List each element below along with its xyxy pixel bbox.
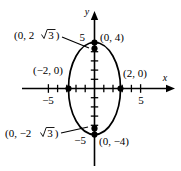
point-0-2root3 bbox=[91, 46, 97, 52]
label-neg2-0: (−2, 0) bbox=[33, 64, 63, 77]
point-2-0 bbox=[117, 85, 123, 91]
label-0-neg2root3-prefix: (0, −2 bbox=[5, 127, 31, 140]
y-axis-arrow-icon bbox=[91, 11, 98, 20]
label-0-4: (0, 4) bbox=[100, 31, 124, 44]
label-0-neg4: (0, −4) bbox=[99, 135, 129, 148]
point-neg2-0 bbox=[65, 85, 71, 91]
label-0-neg2root3-group: (0, −2 3 ) bbox=[5, 127, 59, 140]
point-0-neg4 bbox=[91, 131, 97, 137]
x-tick-label-neg5: −5 bbox=[42, 94, 54, 106]
point-0-4 bbox=[91, 39, 97, 45]
ellipse-figure: x y −5 5 5 −5 (0, 2 3 ) (0, 4) (−2, 0) (… bbox=[0, 0, 181, 171]
label-0-2root3-suffix: ) bbox=[56, 29, 60, 42]
point-0-neg2root3 bbox=[91, 125, 97, 131]
label-2-0: (2, 0) bbox=[123, 67, 147, 80]
y-tick-label-neg5: −5 bbox=[74, 134, 86, 146]
x-axis-label: x bbox=[162, 72, 168, 83]
graph-canvas: x y −5 5 5 −5 (0, 2 3 ) (0, 4) (−2, 0) (… bbox=[0, 0, 181, 171]
x-axis-arrow-icon bbox=[166, 85, 175, 92]
label-0-2root3-group: (0, 2 3 ) bbox=[14, 29, 60, 42]
label-0-2root3-prefix: (0, 2 bbox=[14, 29, 34, 42]
x-tick-label-5: 5 bbox=[138, 94, 144, 106]
label-0-neg2root3-suffix: ) bbox=[55, 127, 59, 140]
y-axis-label: y bbox=[84, 6, 90, 17]
label-0-2root3-radicand: 3 bbox=[48, 29, 54, 41]
label-0-neg2root3-radicand: 3 bbox=[47, 127, 53, 139]
y-tick-label-5: 5 bbox=[80, 31, 86, 43]
